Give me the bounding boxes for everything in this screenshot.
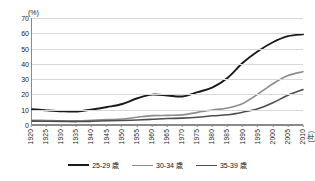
grid-line (32, 110, 303, 111)
x-tick-label: 1985 (224, 129, 231, 144)
x-tick: 1955 (133, 125, 140, 144)
grid-line (32, 49, 303, 50)
x-tick: 1950 (118, 125, 125, 144)
x-tick-label: 1920 (28, 129, 35, 144)
legend-label: 30-34 歳 (156, 160, 183, 170)
x-tick-mark (272, 125, 273, 127)
x-tick: 1990 (239, 125, 246, 144)
x-tick: 1980 (209, 125, 216, 144)
x-tick: 1940 (88, 125, 95, 144)
x-tick: 1925 (43, 125, 50, 144)
x-tick: 1930 (58, 125, 65, 144)
x-tick-mark (46, 125, 47, 127)
x-tick-label: 1975 (194, 129, 201, 144)
y-tick-label: 30 (21, 76, 29, 83)
plot-area: 010203040506070 (31, 18, 303, 125)
x-tick: 2000 (269, 125, 276, 144)
x-tick-mark (31, 125, 32, 127)
legend-item-2[interactable]: 30-34 歳 (132, 160, 183, 170)
x-tick-mark (197, 125, 198, 127)
legend-label: 35-39 歳 (220, 160, 247, 170)
legend-item-3[interactable]: 35-39 歳 (196, 160, 247, 170)
x-tick-mark (151, 125, 152, 127)
x-tick-mark (136, 125, 137, 127)
y-tick-label: 50 (21, 45, 29, 52)
x-tick-label: 1925 (43, 129, 50, 144)
x-tick-label: 1980 (209, 129, 216, 144)
x-tick: 1985 (224, 125, 231, 144)
grid-line (32, 79, 303, 80)
x-tick-mark (167, 125, 168, 127)
x-tick: 1945 (103, 125, 110, 144)
y-tick-label: 40 (21, 60, 29, 67)
x-tick-mark (303, 125, 304, 127)
x-tick-label: 2005 (285, 129, 292, 144)
x-axis-ticks: 1920192519301935194019451950195519601965… (31, 125, 303, 126)
grid-line (32, 94, 303, 95)
x-tick-label: 1960 (149, 129, 156, 144)
grid-line (32, 33, 303, 34)
x-tick-mark (287, 125, 288, 127)
legend-line-swatch (68, 164, 89, 166)
x-tick-mark (182, 125, 183, 127)
x-tick: 1995 (254, 125, 261, 144)
x-tick-mark (106, 125, 107, 127)
x-tick-mark (61, 125, 62, 127)
x-tick-label: 2000 (269, 129, 276, 144)
line-chart: (%) 010203040506070 19201925193019351940… (0, 0, 315, 181)
x-tick-label: 1950 (118, 129, 125, 144)
y-tick-label: 20 (21, 91, 29, 98)
chart-legend: 25-29 歳30-34 歳35-39 歳 (0, 160, 315, 170)
x-tick: 1960 (149, 125, 156, 144)
y-tick-label: 70 (21, 15, 29, 22)
x-tick-mark (121, 125, 122, 127)
x-tick-mark (76, 125, 77, 127)
legend-line-swatch (132, 165, 153, 166)
grid-line (32, 64, 303, 65)
x-tick-label: 1940 (88, 129, 95, 144)
y-tick-label: 10 (21, 106, 29, 113)
legend-item-1[interactable]: 25-29 歳 (68, 160, 119, 170)
x-tick-mark (242, 125, 243, 127)
legend-line-swatch (196, 165, 217, 166)
x-tick-label: 1955 (133, 129, 140, 144)
grid-line (32, 18, 303, 19)
x-tick-label: 1995 (254, 129, 261, 144)
x-tick: 2005 (285, 125, 292, 144)
x-tick: 1975 (194, 125, 201, 144)
x-tick: 1920 (28, 125, 35, 144)
x-tick-mark (227, 125, 228, 127)
x-axis-unit-label: (年) (305, 131, 315, 142)
x-tick: 1935 (73, 125, 80, 144)
x-tick-mark (212, 125, 213, 127)
x-tick-label: 1970 (179, 129, 186, 144)
legend-label: 25-29 歳 (92, 160, 119, 170)
series-line-1 (32, 34, 303, 111)
x-tick-label: 1965 (164, 129, 171, 144)
x-tick: 1970 (179, 125, 186, 144)
y-axis-unit-label: (%) (28, 9, 39, 16)
y-tick-label: 60 (21, 30, 29, 37)
x-tick: 1965 (164, 125, 171, 144)
x-tick-label: 1990 (239, 129, 246, 144)
x-tick-mark (257, 125, 258, 127)
x-tick-label: 1945 (103, 129, 110, 144)
x-tick-label: 1930 (58, 129, 65, 144)
x-tick-mark (91, 125, 92, 127)
x-tick-label: 1935 (73, 129, 80, 144)
